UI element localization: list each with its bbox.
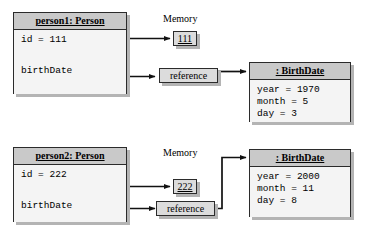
attribute-day: day = 8 [257, 195, 350, 207]
attribute-year: year = 2000 [257, 171, 350, 183]
object-box-birthdate-2[interactable]: : BirthDate year = 2000 month = 11 day =… [249, 149, 351, 217]
object-box-birthdate-2-body: year = 2000 month = 11 day = 8 [250, 167, 350, 217]
reference-box-1-label: reference [170, 70, 207, 81]
object-box-person2[interactable]: person2: Person id = 222 birthDate [13, 147, 127, 222]
attribute-birthdate: birthDate [21, 65, 126, 77]
attribute-month: month = 5 [257, 96, 350, 108]
reference-box-2[interactable]: reference [156, 201, 215, 216]
memory-cell-id-2[interactable]: 222 [173, 179, 197, 194]
attribute-month: month = 11 [257, 183, 350, 195]
arrow-reference-to-birthdate-2 [215, 158, 246, 209]
object-box-birthdate-2-header: : BirthDate [250, 150, 350, 167]
uml-object-diagram: person1: Person id = 111 birthDate Memor… [0, 0, 365, 233]
object-box-birthdate-1-body: year = 1970 month = 5 day = 3 [250, 80, 350, 122]
object-box-person1-body: id = 111 birthDate [14, 30, 126, 94]
attribute-birthdate: birthDate [21, 200, 126, 212]
reference-box-1[interactable]: reference [159, 68, 218, 83]
attribute-id: id = 111 [21, 34, 126, 46]
object-box-birthdate-1[interactable]: : BirthDate year = 1970 month = 5 day = … [249, 62, 351, 122]
reference-box-2-label: reference [167, 203, 204, 214]
object-box-person2-body: id = 222 birthDate [14, 165, 126, 222]
attribute-year: year = 1970 [257, 84, 350, 96]
object-box-person2-header: person2: Person [14, 148, 126, 165]
memory-label-2: Memory [163, 147, 197, 158]
object-box-person1[interactable]: person1: Person id = 111 birthDate [13, 12, 127, 94]
attribute-day: day = 3 [257, 108, 350, 120]
memory-cell-id-1[interactable]: 111 [173, 31, 197, 46]
memory-label-1: Memory [163, 13, 197, 24]
object-box-person1-header: person1: Person [14, 13, 126, 30]
object-box-birthdate-1-header: : BirthDate [250, 63, 350, 80]
attribute-id: id = 222 [21, 169, 126, 181]
